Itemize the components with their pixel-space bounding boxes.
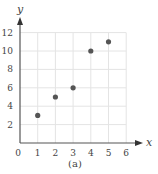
y-tick-label: 12 xyxy=(2,28,13,38)
x-tick-label: 2 xyxy=(53,148,59,158)
x-tick-label: 1 xyxy=(35,148,41,158)
x-tick-labels: 0123456 xyxy=(15,148,129,158)
y-tick-label: 2 xyxy=(7,120,13,130)
y-tick-label: 10 xyxy=(2,46,14,56)
x-axis-label: x xyxy=(146,136,153,149)
y-tick-label: 8 xyxy=(7,64,13,74)
data-point xyxy=(35,113,40,118)
x-tick-label: 0 xyxy=(15,148,21,158)
data-point xyxy=(106,39,111,44)
data-point xyxy=(53,94,58,99)
y-axis-label: y xyxy=(16,3,24,16)
x-axis-arrow-icon xyxy=(135,140,143,146)
x-tick-label: 4 xyxy=(88,148,94,158)
y-tick-label: 4 xyxy=(7,101,13,111)
y-tick-labels: 24681012 xyxy=(2,28,14,130)
data-point xyxy=(88,48,93,53)
figure-caption: (a) xyxy=(68,158,82,169)
data-point xyxy=(71,85,76,90)
scatter-chart: x y 0123456 24681012 (a) xyxy=(0,0,158,174)
x-tick-label: 6 xyxy=(123,148,129,158)
x-tick-label: 3 xyxy=(70,148,76,158)
x-tick-label: 5 xyxy=(106,148,112,158)
axes: x y xyxy=(16,3,153,149)
y-tick-label: 6 xyxy=(7,83,13,93)
y-axis-arrow-icon xyxy=(17,17,23,25)
